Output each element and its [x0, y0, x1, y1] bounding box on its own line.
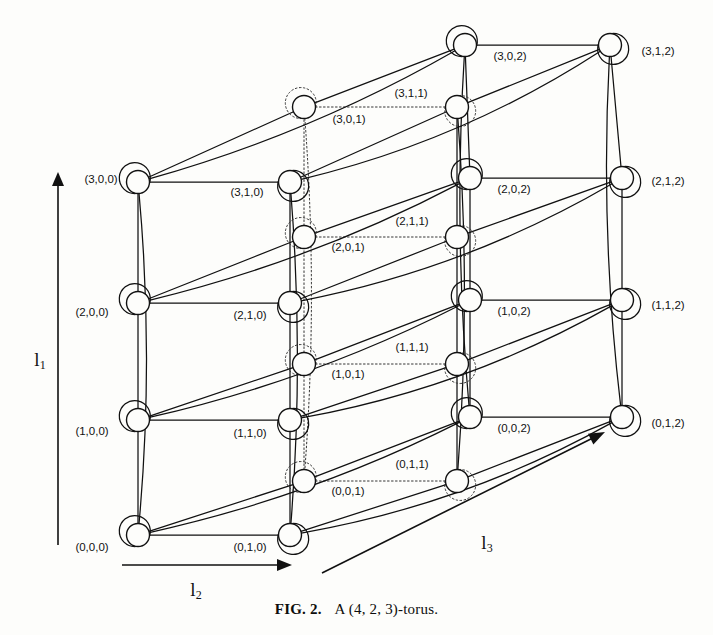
wraparound-edges-group — [119, 26, 640, 555]
axis-label-l3: l3 — [481, 532, 492, 554]
node-label-1-0-1: (1,0,1) — [331, 368, 364, 380]
node-label-0-0-2: (0,0,2) — [497, 422, 530, 434]
node-label-0-0-1: (0,0,1) — [331, 485, 364, 497]
axis-arrow-l2 — [277, 559, 292, 571]
node-0-1-0 — [279, 524, 302, 547]
node-label-3-1-1: (3,1,1) — [394, 87, 427, 99]
figure-caption: FIG. 2.A (4, 2, 3)-torus. — [0, 601, 713, 618]
node-2-0-2 — [459, 167, 482, 190]
node-1-1-0 — [279, 409, 302, 432]
hidden-edges-group — [304, 107, 446, 481]
node-label-1-1-1: (1,1,1) — [395, 341, 428, 353]
node-labels-group: (0,0,0)(0,1,0)(1,0,0)(1,1,0)(2,0,0)(2,1,… — [75, 45, 684, 553]
edge-visible — [149, 241, 294, 299]
node-label-2-1-2: (2,1,2) — [651, 175, 684, 187]
node-label-0-1-0: (0,1,0) — [233, 541, 266, 553]
node-0-0-2 — [459, 406, 482, 429]
node-3-0-0 — [127, 171, 150, 194]
axis-label-l1: l1 — [34, 349, 45, 371]
figure-page: (0,0,0)(0,1,0)(1,0,0)(1,1,0)(2,0,0)(2,1,… — [0, 0, 713, 635]
edge-visible — [315, 304, 460, 360]
node-2-0-1 — [293, 226, 316, 249]
node-1-1-2 — [611, 289, 634, 312]
axis-arrow-l1 — [52, 172, 64, 186]
node-label-3-0-2: (3,0,2) — [493, 50, 526, 62]
axis-label-l2: l2 — [190, 579, 201, 601]
figure-caption-text: A (4, 2, 3)-torus. — [335, 601, 439, 617]
figure-number: FIG. 2. — [275, 601, 322, 617]
nodes-group — [127, 34, 634, 547]
torus-diagram: (0,0,0)(0,1,0)(1,0,0)(1,1,0)(2,0,0)(2,1,… — [0, 0, 713, 635]
edge-visible — [468, 182, 611, 233]
node-label-3-0-1: (3,0,1) — [332, 113, 365, 125]
node-label-0-1-2: (0,1,2) — [651, 417, 684, 429]
node-label-0-1-1: (0,1,1) — [395, 458, 428, 470]
node-label-1-1-2: (1,1,2) — [651, 299, 684, 311]
node-2-1-2 — [611, 167, 634, 190]
edge-visible — [468, 304, 612, 360]
edge-visible — [301, 368, 446, 417]
node-label-1-0-0: (1,0,0) — [75, 425, 108, 437]
edge-wraparound — [139, 193, 146, 523]
node-0-0-0 — [127, 524, 150, 547]
node-0-1-2 — [611, 406, 634, 429]
axis-label-sub-l3: 3 — [487, 541, 493, 555]
node-3-1-1 — [446, 96, 469, 119]
node-label-3-1-2: (3,1,2) — [641, 45, 674, 57]
node-3-0-1 — [293, 96, 316, 119]
node-2-1-1 — [446, 226, 469, 249]
edge-visible — [149, 368, 293, 417]
node-label-1-0-2: (1,0,2) — [497, 305, 530, 317]
node-3-1-0 — [279, 171, 302, 194]
edge-visible — [300, 112, 446, 178]
node-label-3-1-0: (3,1,0) — [230, 186, 263, 198]
node-1-1-1 — [446, 353, 469, 376]
node-0-0-1 — [293, 470, 316, 493]
edge-wraparound — [606, 56, 620, 405]
axis-label-sub-l2: 2 — [196, 588, 202, 602]
node-label-2-1-0: (2,1,0) — [233, 309, 266, 321]
node-2-1-0 — [279, 292, 302, 315]
edge-visible — [315, 49, 455, 103]
edge-visible — [468, 49, 600, 102]
edge-visible — [315, 421, 460, 477]
node-label-2-0-2: (2,0,2) — [497, 183, 530, 195]
node-0-1-1 — [446, 470, 469, 493]
edge-visible — [148, 112, 293, 178]
node-label-2-0-1: (2,0,1) — [331, 241, 364, 253]
node-2-0-0 — [127, 292, 150, 315]
node-label-3-0-0: (3,0,0) — [84, 173, 117, 185]
axis-label-sub-l1: 1 — [40, 358, 46, 372]
node-3-0-2 — [454, 34, 477, 57]
node-1-0-0 — [127, 409, 150, 432]
edge-visible — [149, 485, 293, 532]
axis-arrow-l3 — [588, 432, 605, 445]
node-label-1-1-0: (1,1,0) — [233, 427, 266, 439]
visible-edges-group — [138, 45, 622, 535]
edge-visible — [301, 485, 446, 532]
node-label-0-0-0: (0,0,0) — [75, 541, 108, 553]
edge-visible — [611, 56, 621, 166]
edge-visible — [468, 421, 612, 477]
node-3-1-2 — [599, 34, 622, 57]
node-1-0-2 — [459, 289, 482, 312]
edge-visible — [301, 241, 447, 299]
edge-visible — [315, 182, 459, 233]
node-label-2-0-0: (2,0,0) — [75, 306, 108, 318]
node-1-0-1 — [293, 353, 316, 376]
node-label-2-1-1: (2,1,1) — [395, 215, 428, 227]
